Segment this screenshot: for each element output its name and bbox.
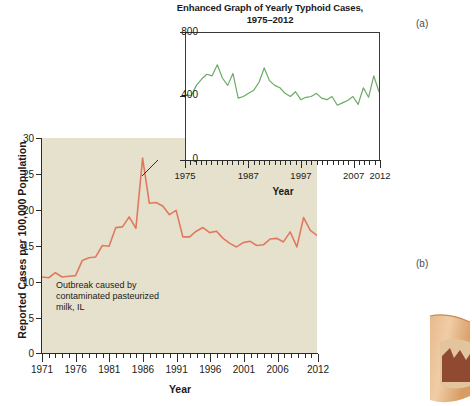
inset-xtick-1991 [269,161,270,165]
inset-xtick-1988 [254,161,255,165]
inset-xtick-2000 [317,161,318,165]
inset-xtick-2002 [327,161,328,165]
main-xtick-1990 [170,354,171,358]
inset-chart: 800 400 0 19751987199720072012 Year [150,28,395,180]
main-xtick-2005 [271,354,272,358]
photo-fragment [428,312,472,406]
main-xtick-2008 [291,354,292,358]
inset-xtick-1976 [190,161,191,165]
main-xtick-2009 [298,354,299,358]
main-xtick-1988 [156,354,157,358]
inset-xtick-1986 [243,161,244,165]
main-xtick-1996 [210,354,211,362]
inset-xtick-1987 [248,161,249,168]
main-xtick-2010 [305,354,306,358]
main-x-axis-title: Year [42,383,318,395]
inset-xtick-1989 [259,161,260,165]
main-xtick-1986 [143,354,144,362]
main-xtick-2002 [251,354,252,358]
inset-x-axis-title: Year [185,186,381,197]
outbreak-annotation: Outbreak caused by contaminated pasteuri… [56,280,176,313]
main-xtick-1982 [116,354,117,358]
inset-xtick-1997 [301,161,302,168]
main-xtick-2012 [318,354,319,362]
inset-x-ticks [185,161,381,168]
inset-xlabel-2012: 2012 [360,170,400,181]
inset-xtick-2011 [375,161,376,165]
inset-xtick-1977 [196,161,197,165]
inset-xtick-2012 [380,161,381,168]
inset-xtick-1975 [185,161,186,168]
main-xtick-2000 [237,354,238,358]
inset-xlabel-1975: 1975 [165,170,205,181]
inset-title-line2: 1975–2012 [247,14,294,25]
inset-xtick-1993 [280,161,281,165]
main-xlabel-2012: 2012 [298,364,338,375]
inset-xlabel-1987: 1987 [228,170,268,181]
main-xtick-1983 [123,354,124,358]
main-xtick-1974 [62,354,63,358]
main-ytick-5 [36,318,42,319]
inset-series-svg [186,33,379,160]
inset-xtick-2007 [354,161,355,168]
main-xtick-1985 [136,354,137,358]
main-xtick-2003 [257,354,258,358]
inset-xlabel-1997: 1997 [281,170,321,181]
main-xtick-1977 [82,354,83,358]
main-xtick-1991 [177,354,178,362]
main-xtick-1973 [55,354,56,358]
main-xtick-1993 [190,354,191,358]
inset-xtick-1994 [285,161,286,165]
inset-ytick-800 [180,32,186,33]
main-x-ticks [42,354,318,362]
inset-xtick-2001 [322,161,323,165]
main-xtick-1992 [183,354,184,358]
inset-xtick-1995 [290,161,291,165]
main-xtick-1978 [89,354,90,358]
inset-xtick-1990 [264,161,265,165]
inset-xtick-1985 [238,161,239,165]
main-xtick-1972 [49,354,50,358]
inset-title-line1: Enhanced Graph of Yearly Typhoid Cases, [177,2,363,13]
inset-xtick-1998 [306,161,307,165]
main-xtick-1995 [204,354,205,358]
inset-xtick-1979 [206,161,207,165]
inset-xtick-2005 [343,161,344,165]
main-xtick-2006 [278,354,279,362]
main-ytick-0 [36,353,42,354]
panel-letter-a: (a) [416,18,428,29]
main-xtick-2004 [264,354,265,358]
main-xtick-1994 [197,354,198,358]
main-xtick-1980 [103,354,104,358]
main-ytick-20 [36,210,42,211]
main-xtick-1979 [96,354,97,358]
inset-xtick-2010 [369,161,370,165]
inset-xtick-1999 [311,161,312,165]
main-xtick-1975 [69,354,70,358]
main-ylabel-0: 0 [8,348,34,359]
main-xtick-2001 [244,354,245,362]
main-ytick-15 [36,246,42,247]
inset-data-line [186,65,379,105]
main-ytick-25 [36,174,42,175]
inset-xtick-1996 [296,161,297,165]
panel-letter-b: (b) [416,258,428,269]
main-xtick-1998 [224,354,225,358]
main-ytick-30 [36,138,42,139]
inset-xtick-2004 [338,161,339,165]
inset-ylabel-800: 800 [158,26,198,37]
main-xtick-2007 [284,354,285,358]
inset-xtick-2008 [359,161,360,165]
inset-xtick-1980 [211,161,212,165]
main-xtick-1997 [217,354,218,358]
inset-xtick-1982 [222,161,223,165]
inset-xtick-1983 [227,161,228,165]
photo-fragment-svg [428,312,472,406]
inset-ytick-400 [180,96,186,97]
main-xtick-1999 [230,354,231,358]
inset-ylabel-400: 400 [158,89,198,100]
figure-root: (a) (b) 30 25 20 15 10 5 0 1971197619811… [0,0,472,406]
inset-plot-area [185,32,380,161]
main-xlabel-2006: 2006 [258,364,298,375]
inset-xtick-1984 [232,161,233,165]
